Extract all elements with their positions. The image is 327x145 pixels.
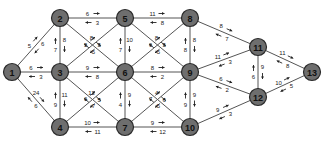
- edge-weight-label: 11: [61, 92, 68, 98]
- arrowhead-icon: [162, 12, 165, 15]
- edge-weight-label: 8: [219, 23, 223, 29]
- node-label: 6: [122, 68, 127, 78]
- edge-weight-label: 2: [161, 74, 165, 80]
- node-label: 13: [307, 68, 317, 78]
- arrowhead-icon: [184, 93, 187, 96]
- edge-weight-label: 9: [261, 64, 265, 70]
- arrowhead-icon: [252, 65, 255, 68]
- edge-9-12: [190, 72, 258, 97]
- edge-weight-label: 9: [216, 107, 220, 113]
- arrowhead-icon: [193, 104, 196, 107]
- edge-weight-label: 9: [86, 65, 90, 71]
- arrowhead-icon: [261, 77, 264, 80]
- node-11: 11: [250, 39, 267, 56]
- node-label: 5: [122, 14, 127, 24]
- edge-weight-label: 11: [279, 50, 286, 56]
- edge-weight-label: 8: [161, 20, 165, 26]
- edge-weight-label: 8: [151, 65, 155, 71]
- edge-weight-label: 6: [252, 74, 256, 80]
- node-6: 6: [117, 64, 134, 81]
- edge-weight-label: 8: [96, 74, 100, 80]
- arrowhead-icon: [54, 38, 57, 41]
- arrowhead-icon: [151, 75, 154, 78]
- edge-weight-label: 2: [225, 87, 229, 93]
- arrowhead-icon: [63, 104, 66, 107]
- node-label: 3: [57, 68, 62, 78]
- arrowhead-icon: [97, 12, 100, 15]
- edge-weight-label: 8: [184, 47, 188, 53]
- edge-8-11: [190, 18, 258, 47]
- node-label: 7: [122, 123, 127, 133]
- edge-weight-label: 10: [84, 120, 91, 126]
- edge-1-4: [12, 72, 60, 127]
- node-12: 12: [250, 89, 267, 106]
- arrowhead-icon: [97, 121, 100, 124]
- arrowhead-icon: [86, 130, 89, 133]
- arrowhead-icon: [193, 50, 196, 53]
- arrowhead-icon: [128, 104, 131, 107]
- node-label: 10: [185, 123, 195, 133]
- node-4: 4: [52, 119, 69, 136]
- edge-weight-label: 12: [159, 129, 166, 135]
- node-label: 8: [187, 14, 192, 24]
- arrowhead-icon: [63, 50, 66, 53]
- node-label: 12: [253, 93, 263, 103]
- edge-weight-label: 3: [229, 111, 233, 117]
- node-label: 4: [57, 123, 62, 133]
- node-7: 7: [117, 119, 134, 136]
- edge-weight-label: 5: [98, 42, 102, 48]
- edge-weight-label: 5: [290, 83, 294, 89]
- edge-9-11: [190, 47, 258, 72]
- arrowhead-icon: [86, 21, 89, 24]
- edge-weight-label: 11: [149, 11, 156, 17]
- edge-weight-label: 7: [119, 47, 123, 53]
- node-9: 9: [182, 64, 199, 81]
- edge-weight-label: 10: [275, 80, 282, 86]
- edge-weight-label: 7: [54, 47, 58, 53]
- edge-weight-label: 9: [184, 102, 188, 108]
- edge-weight-label: 8: [193, 37, 197, 43]
- node-5: 5: [117, 10, 134, 27]
- node-label: 9: [187, 68, 192, 78]
- node-label: 1: [9, 68, 14, 78]
- edge-weight-label: 9: [151, 120, 155, 126]
- arrowhead-icon: [128, 50, 131, 53]
- arrowhead-icon: [151, 130, 154, 133]
- edge-weight-label: 5: [98, 97, 102, 103]
- arrowhead-icon: [97, 66, 100, 69]
- edge-weight-label: 6: [163, 97, 167, 103]
- edge-weight-label: 6: [219, 76, 223, 82]
- edge-weight-label: 8: [63, 37, 67, 43]
- arrowhead-icon: [162, 121, 165, 124]
- arrowhead-icon: [86, 75, 89, 78]
- arrowhead-icon: [29, 75, 32, 78]
- edge-weight-label: 3: [96, 20, 100, 26]
- edge-weight-label: 8: [286, 63, 290, 69]
- edge-weight-label: 11: [94, 129, 101, 135]
- arrowhead-icon: [41, 66, 44, 69]
- arrowhead-icon: [162, 66, 165, 69]
- edge-weight-label: 7: [225, 36, 229, 42]
- edge-weight-label: 9: [193, 92, 197, 98]
- edge-weight-label: 6: [29, 65, 33, 71]
- node-label: 2: [57, 14, 62, 24]
- edge-weight-label: 6: [34, 103, 38, 109]
- node-10: 10: [182, 119, 199, 136]
- edge-10-12: [190, 97, 258, 127]
- arrowhead-icon: [184, 38, 187, 41]
- node-1: 1: [4, 64, 21, 81]
- edge-weight-label: 6: [86, 11, 90, 17]
- arrowhead-icon: [151, 21, 154, 24]
- node-8: 8: [182, 10, 199, 27]
- edge-weight-label: 6: [41, 41, 45, 47]
- edge-weight-label: 5: [163, 42, 167, 48]
- node-13: 13: [304, 64, 321, 81]
- edge-weight-label: 4: [119, 102, 123, 108]
- edge-weight-label: 5: [28, 43, 32, 49]
- edge-weight-label: 11: [215, 54, 222, 60]
- edge-weight-label: 3: [229, 59, 233, 65]
- node-3: 3: [52, 64, 69, 81]
- edge-weight-label: 10: [126, 37, 133, 43]
- edge-weight-label: 3: [39, 74, 43, 80]
- node-label: 11: [253, 43, 263, 53]
